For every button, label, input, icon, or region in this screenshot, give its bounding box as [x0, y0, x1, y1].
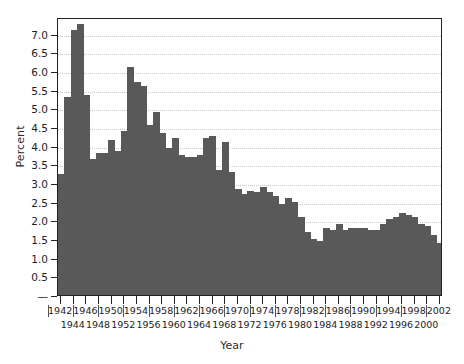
x-axis-tick-label: 1970	[225, 305, 249, 316]
x-axis-tick-label: 1950	[99, 305, 123, 316]
x-axis-tick-label: 1986	[326, 305, 350, 316]
x-axis-tick-label: 1996	[389, 319, 413, 330]
x-axis-tick-label: 1992	[364, 319, 388, 330]
y-axis-ticks: —0.51.01.52.02.53.03.54.04.55.05.56.06.5…	[0, 18, 57, 296]
x-axis-tick	[388, 296, 389, 304]
x-axis-tick	[98, 296, 99, 304]
x-axis-tick	[262, 296, 263, 304]
x-label-separator	[149, 305, 150, 317]
x-axis-tick	[313, 296, 314, 304]
x-axis-tick-label: 1972	[237, 319, 261, 330]
x-label-separator	[199, 305, 200, 317]
y-axis-tick-label: 1.5	[0, 234, 48, 246]
x-axis-tick-label: 2002	[427, 305, 451, 316]
y-axis-tick-label: 0.5	[0, 271, 48, 283]
x-axis-tick-label: 1958	[149, 305, 173, 316]
x-axis-tick	[161, 296, 162, 304]
x-axis-ticks	[57, 296, 442, 305]
x-axis-tick-label: 1962	[174, 305, 198, 316]
x-axis-tick	[237, 296, 238, 304]
x-axis-tick	[325, 296, 326, 304]
x-axis-tick	[224, 296, 225, 304]
x-axis-tick-label: 1968	[212, 319, 236, 330]
x-axis-tick	[111, 296, 112, 304]
y-axis-tick-label: 2.5	[0, 197, 48, 209]
x-axis-tick	[426, 296, 427, 304]
y-axis-tick-label: 2.0	[0, 215, 48, 227]
x-label-separator	[325, 305, 326, 317]
x-label-separator	[300, 305, 301, 317]
plot-area	[57, 18, 442, 296]
x-axis-tick	[275, 296, 276, 304]
bar-series	[58, 19, 441, 295]
x-axis-tick-label: 2000	[414, 319, 438, 330]
x-axis-tick-label: 1998	[402, 305, 426, 316]
x-axis-tick	[300, 296, 301, 304]
x-axis-tick	[149, 296, 150, 304]
x-axis-tick-label: 1942	[48, 305, 72, 316]
y-axis-tick-label: 5.5	[0, 85, 48, 97]
x-axis-tick	[73, 296, 74, 304]
x-label-separator	[350, 305, 351, 317]
x-axis-tick-label: 1974	[250, 305, 274, 316]
x-axis-tick-label: 1982	[301, 305, 325, 316]
x-axis-tick	[212, 296, 213, 304]
x-label-separator	[98, 305, 99, 317]
x-label-separator	[123, 305, 124, 317]
x-axis-tick	[414, 296, 415, 304]
x-label-separator	[224, 305, 225, 317]
x-label-separator	[376, 305, 377, 317]
y-axis-tick-label: 1.0	[0, 253, 48, 265]
x-axis-tick-label: 1984	[313, 319, 337, 330]
x-axis-tick-label: 1944	[61, 319, 85, 330]
x-axis-tick-label: 1956	[136, 319, 160, 330]
x-label-separator	[73, 305, 74, 317]
x-axis-tick-label: 1960	[162, 319, 186, 330]
y-axis-tick-label: 6.5	[0, 47, 48, 59]
y-axis-tick-label: 6.0	[0, 66, 48, 78]
x-axis-tick-label: 1988	[338, 319, 362, 330]
x-axis-tick-label: 1976	[263, 319, 287, 330]
x-axis-tick	[123, 296, 124, 304]
x-axis-tick-label: 1946	[73, 305, 97, 316]
x-label-separator	[401, 305, 402, 317]
x-axis-tick	[338, 296, 339, 304]
x-axis-tick-label: 1964	[187, 319, 211, 330]
x-label-separator	[174, 305, 175, 317]
chart-figure: Percent —0.51.01.52.02.53.03.54.04.55.05…	[0, 0, 464, 364]
x-axis-tick	[287, 296, 288, 304]
x-axis-tick	[60, 296, 61, 304]
x-axis-label: Year	[0, 339, 464, 352]
x-axis-tick	[136, 296, 137, 304]
x-axis-tick	[85, 296, 86, 304]
x-axis-tick	[250, 296, 251, 304]
x-axis-tick	[186, 296, 187, 304]
bar	[437, 243, 442, 295]
x-label-separator	[250, 305, 251, 317]
x-axis-tick-label: 1952	[111, 319, 135, 330]
y-axis-tick-label: 4.0	[0, 141, 48, 153]
x-label-separator	[275, 305, 276, 317]
x-axis-tick-labels: 1942194419461948195019521954195619581960…	[0, 305, 464, 335]
x-axis-tick	[439, 296, 440, 304]
x-axis-tick-label: 1954	[124, 305, 148, 316]
x-axis-tick-label: 1994	[376, 305, 400, 316]
x-axis-tick	[376, 296, 377, 304]
x-axis-tick	[174, 296, 175, 304]
y-axis-tick-label: 7.0	[0, 29, 48, 41]
x-axis-tick-label: 1978	[275, 305, 299, 316]
x-axis-tick	[363, 296, 364, 304]
x-axis-tick-label: 1980	[288, 319, 312, 330]
y-axis-tick-label: 4.5	[0, 122, 48, 134]
x-axis-tick	[350, 296, 351, 304]
x-axis-tick	[199, 296, 200, 304]
y-axis-tick-label: —	[0, 290, 48, 302]
x-axis-tick-label: 1948	[86, 319, 110, 330]
y-axis-tick-label: 3.0	[0, 178, 48, 190]
y-axis-tick-label: 3.5	[0, 159, 48, 171]
x-axis-tick	[401, 296, 402, 304]
x-axis-tick-label: 1990	[351, 305, 375, 316]
x-axis-tick-label: 1966	[200, 305, 224, 316]
x-label-separator	[48, 305, 49, 317]
y-axis-tick-label: 5.0	[0, 103, 48, 115]
